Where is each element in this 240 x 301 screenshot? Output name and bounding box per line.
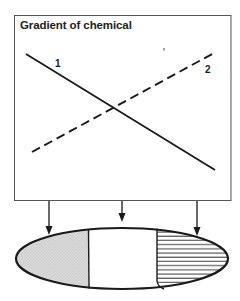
embryo-region-middle [89, 225, 158, 295]
line-2-label: 2 [205, 64, 211, 75]
embryo-divider-left [89, 229, 90, 289]
diagram-title: Gradient of chemical [20, 19, 132, 31]
line-1-label: 1 [55, 58, 61, 69]
arrowhead-middle-icon [119, 213, 126, 222]
chart-frame [15, 16, 232, 201]
arrowhead-anterior-icon [46, 226, 53, 235]
arrowhead-posterior-icon [194, 227, 201, 236]
embryo [14, 225, 232, 295]
gradient-diagram [0, 0, 240, 301]
stray-mark [164, 48, 165, 51]
